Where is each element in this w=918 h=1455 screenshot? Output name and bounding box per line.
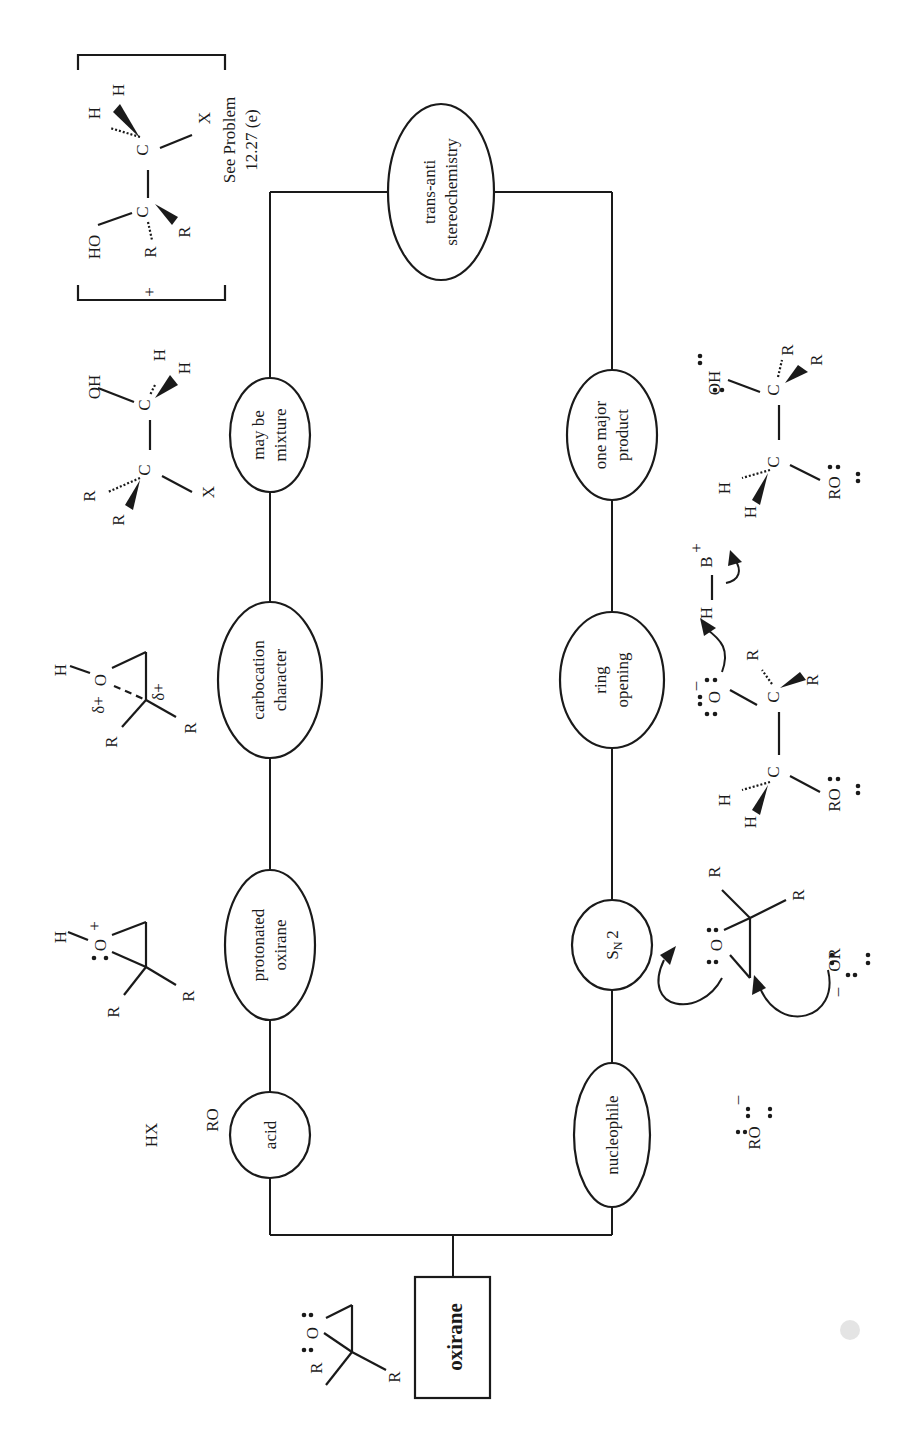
svg-text:HO: HO: [85, 235, 104, 260]
reagent-hx: HX: [142, 1123, 161, 1148]
svg-text:R: R: [778, 344, 797, 356]
node-trans-anti-stereochemistry[interactable]: trans-anti stereochemistry: [388, 104, 494, 280]
svg-text:+: +: [687, 543, 706, 553]
svg-text:R: R: [743, 649, 762, 661]
svg-text:character: character: [271, 649, 290, 712]
svg-text:H: H: [715, 794, 734, 806]
svg-text:C: C: [764, 456, 783, 467]
structure-protonated-oxirane: H O + R R: [51, 921, 198, 1017]
svg-text:C: C: [135, 464, 154, 475]
svg-text:R: R: [307, 1362, 326, 1374]
svg-text:H: H: [715, 482, 734, 494]
svg-text:C: C: [133, 206, 152, 217]
svg-text:RO: RO: [203, 1108, 222, 1132]
structure-ring-opening: O – H B + C R R C H H RO: [685, 543, 860, 828]
structure-sn2-attack: O R R OR –: [658, 866, 870, 1017]
node-carbocation-character[interactable]: carbocation character: [218, 602, 322, 758]
svg-text:H: H: [697, 607, 716, 619]
svg-text:R: R: [789, 889, 808, 901]
connector-lines: [270, 192, 612, 1277]
svg-text:H: H: [741, 506, 760, 518]
svg-text:H: H: [150, 349, 169, 361]
svg-text:H: H: [741, 816, 760, 828]
svg-text:–: –: [685, 681, 704, 691]
svg-text:O: O: [303, 1327, 322, 1339]
svg-text:R: R: [385, 1371, 404, 1383]
svg-text:ring: ring: [591, 666, 610, 694]
svg-text:trans-anti: trans-anti: [420, 160, 439, 224]
svg-text:H: H: [175, 362, 194, 374]
oxirane-label: oxirane: [443, 1303, 467, 1371]
svg-text:R: R: [141, 246, 160, 258]
svg-text:may be: may be: [249, 410, 268, 460]
structure-carbocation-character: H O δ+ δ+ R R: [51, 652, 200, 748]
oxirane-reaction-map: oxirane acid protonated oxirane carbocat…: [0, 0, 918, 1455]
svg-text:C: C: [764, 766, 783, 777]
node-ring-opening[interactable]: ring opening: [560, 612, 664, 748]
svg-text:OH: OH: [85, 375, 104, 400]
svg-text:C: C: [764, 691, 783, 702]
svg-text:H: H: [51, 664, 70, 676]
node-one-major-product[interactable]: one major product: [567, 370, 657, 500]
svg-text:nucleophile: nucleophile: [603, 1095, 622, 1174]
node-may-be-mixture[interactable]: may be mixture: [230, 378, 310, 492]
svg-text:RO: RO: [745, 1126, 764, 1150]
svg-text:12.27 (e): 12.27 (e): [242, 109, 261, 170]
svg-text:R: R: [803, 674, 822, 686]
svg-text:opening: opening: [613, 652, 632, 707]
svg-text:See Problem: See Problem: [220, 97, 239, 183]
svg-text:C: C: [764, 384, 783, 395]
structure-mixture-product-1: OH C H H C R R X: [80, 349, 218, 526]
node-protonated-oxirane[interactable]: protonated oxirane: [225, 870, 315, 1020]
svg-text:O: O: [707, 939, 726, 951]
svg-text:C: C: [133, 144, 152, 155]
structure-oxirane: R R O: [302, 1305, 404, 1385]
node-sn2[interactable]: SN2: [572, 900, 652, 990]
svg-text:carbocation: carbocation: [249, 640, 268, 720]
svg-text:stereochemistry: stereochemistry: [442, 138, 461, 246]
node-acid[interactable]: acid: [230, 1092, 310, 1178]
svg-text:R: R: [175, 226, 194, 238]
svg-text:R: R: [104, 1006, 123, 1018]
svg-text:oxirane: oxirane: [271, 920, 290, 971]
svg-text:O: O: [91, 939, 110, 951]
svg-text:H: H: [51, 931, 70, 943]
svg-text:R: R: [109, 514, 128, 526]
oxirane-box[interactable]: oxirane: [415, 1277, 490, 1398]
svg-text:–: –: [727, 1095, 746, 1105]
svg-text:acid: acid: [261, 1120, 280, 1149]
structure-major-product: OH C R R C H H RO: [698, 344, 861, 518]
svg-text:δ+: δ+: [89, 696, 108, 714]
svg-text:X: X: [199, 486, 218, 498]
svg-text:OR: OR: [825, 948, 844, 972]
svg-text:H: H: [109, 84, 128, 96]
svg-text:R: R: [705, 866, 724, 878]
svg-text:RO: RO: [825, 476, 844, 500]
svg-text:+: +: [140, 287, 159, 297]
structure-alkoxide-reagent: RO –: [727, 1095, 764, 1150]
node-nucleophile[interactable]: nucleophile: [574, 1063, 650, 1207]
svg-text:O: O: [91, 674, 110, 686]
svg-text:R: R: [80, 490, 99, 502]
svg-text:–: –: [827, 987, 846, 997]
svg-text:R: R: [102, 736, 121, 748]
scan-smudge: [840, 1320, 860, 1340]
see-problem-note: See Problem 12.27 (e): [220, 97, 261, 183]
structure-mixture-product-2: + HO C R R C H H X: [78, 55, 225, 300]
svg-text:product: product: [613, 409, 632, 461]
svg-text:RO: RO: [825, 788, 844, 812]
svg-text:protonated: protonated: [249, 908, 268, 981]
svg-text:X: X: [195, 112, 214, 124]
svg-text:+: +: [85, 921, 104, 931]
svg-text:R: R: [179, 990, 198, 1002]
svg-text:δ+: δ+: [149, 683, 168, 701]
svg-text:R: R: [181, 722, 200, 734]
svg-text:H: H: [85, 107, 104, 119]
svg-text:B: B: [697, 556, 716, 567]
svg-text:C: C: [135, 399, 154, 410]
svg-text:R: R: [807, 354, 826, 366]
svg-text:mixture: mixture: [271, 409, 290, 462]
svg-text:one major: one major: [591, 400, 610, 469]
svg-text:O: O: [705, 691, 724, 703]
